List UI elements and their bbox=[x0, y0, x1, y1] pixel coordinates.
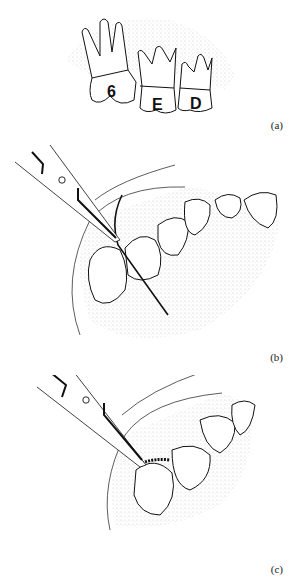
panel-a-caption: (a) bbox=[271, 119, 283, 131]
panel-b: (b) bbox=[0, 140, 300, 375]
panel-c-caption: (c) bbox=[271, 563, 283, 575]
tooth-label-e: E bbox=[152, 96, 163, 113]
panel-b-caption: (b) bbox=[270, 351, 283, 363]
tooth-label-6: 6 bbox=[107, 83, 116, 100]
ligature-placement-illustration bbox=[0, 140, 300, 375]
teeth-illustration: 6 E D bbox=[0, 0, 300, 140]
panel-c: (c) bbox=[0, 375, 300, 585]
twisted-ligature-illustration bbox=[0, 375, 300, 585]
tooth-label-d: D bbox=[190, 95, 202, 112]
panel-a: 6 E D (a) bbox=[0, 0, 300, 140]
scissors-instrument-c bbox=[37, 375, 146, 467]
